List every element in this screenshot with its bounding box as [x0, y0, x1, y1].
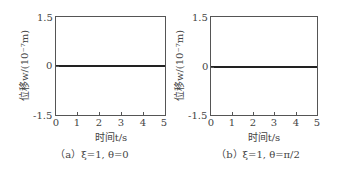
- y-tick: [56, 66, 59, 67]
- y-tick-label: -1.5: [33, 110, 52, 121]
- y-axis-label: 位移w/(10⁻⁷m): [16, 30, 31, 101]
- x-tick-label: 3: [118, 117, 124, 128]
- figure-caption: （b）ξ=1, θ=π/2: [216, 146, 300, 161]
- y-tick-label: 1.5: [192, 12, 208, 23]
- x-tick-label: 0: [208, 117, 214, 128]
- x-axis-label: 时间t/s: [95, 129, 128, 144]
- x-tick-label: 5: [314, 117, 320, 128]
- y-tick-label: 0: [46, 60, 52, 71]
- x-tick: [253, 112, 254, 115]
- x-tick-label: 2: [250, 117, 256, 128]
- x-tick-label: 0: [53, 117, 59, 128]
- x-tick: [296, 112, 297, 115]
- y-tick-label: 0: [202, 61, 208, 72]
- chart-panel-a: 1.5 0 -1.5 0 1 2 3 4 5 位移w/(10⁻⁷m) 时间t/s…: [0, 0, 168, 170]
- plot-frame: [55, 16, 166, 116]
- figure-caption: （a）ξ=1, θ=0: [55, 146, 128, 161]
- x-axis-label: 时间t/s: [248, 129, 281, 144]
- chart-panel-b: 1.5 0 -1.5 0 1 2 3 4 5 位移w/(10⁻⁷m) 时间t/s…: [167, 0, 335, 170]
- x-tick: [99, 112, 100, 115]
- x-tick-label: 1: [74, 117, 80, 128]
- y-axis-label: 位移w/(10⁻⁷m): [171, 30, 186, 101]
- plot-frame: [210, 16, 318, 116]
- x-tick: [232, 112, 233, 115]
- x-tick: [121, 112, 122, 115]
- data-line: [211, 66, 317, 68]
- y-tick-label: 1.5: [37, 12, 53, 23]
- x-tick: [274, 112, 275, 115]
- x-tick-label: 4: [140, 117, 146, 128]
- y-tick: [211, 67, 214, 68]
- x-tick-label: 2: [96, 117, 102, 128]
- x-tick-label: 1: [229, 117, 235, 128]
- x-tick-label: 3: [271, 117, 277, 128]
- x-tick: [143, 112, 144, 115]
- data-line: [56, 65, 165, 67]
- y-tick-label: -1.5: [188, 110, 207, 121]
- x-tick-label: 4: [293, 117, 299, 128]
- x-tick: [77, 112, 78, 115]
